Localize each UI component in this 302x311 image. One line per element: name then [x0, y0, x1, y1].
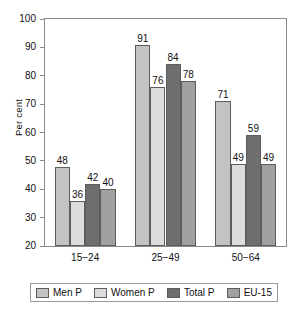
- bar-value-label: 78: [175, 69, 202, 80]
- y-axis-tick-label: 40: [25, 184, 36, 194]
- bar-chart: Per cent 1009080706050403020 48364240917…: [0, 0, 302, 311]
- y-axis-tick-mark: [40, 217, 44, 218]
- y-axis-tick: 40: [0, 184, 44, 194]
- bar-value-label: 84: [160, 52, 187, 63]
- legend-label: Men P: [53, 287, 82, 298]
- bar-total-p-25-49: [166, 64, 181, 246]
- y-axis-tick-mark: [40, 104, 44, 105]
- bar-total-p-15-24: [85, 184, 100, 246]
- chart-legend: Men PWomen PTotal PEU-15: [30, 283, 278, 302]
- y-axis-tick-label: 60: [25, 128, 36, 138]
- bar-eu-15-25-49: [181, 81, 196, 246]
- bar-women-p-15-24: [70, 201, 85, 246]
- y-axis-tick-label: 30: [25, 213, 36, 223]
- y-axis-tick-label: 80: [25, 71, 36, 81]
- bar-value-label: 91: [129, 33, 156, 44]
- y-axis-tick-mark: [40, 189, 44, 190]
- legend-swatch-icon: [227, 288, 240, 298]
- y-axis-tick-mark: [40, 75, 44, 76]
- x-axis-category-label: 25−49: [126, 252, 206, 264]
- y-axis-tick: 90: [0, 42, 44, 52]
- y-axis-tick-mark: [40, 19, 44, 20]
- bar-value-label: 49: [255, 152, 282, 163]
- bar-value-label: 48: [49, 155, 76, 166]
- legend-item-women-p[interactable]: Women P: [94, 287, 155, 298]
- legend-item-eu-15[interactable]: EU-15: [227, 287, 272, 298]
- y-axis-tick-label: 20: [25, 241, 36, 251]
- bar-eu-15-50-64: [261, 164, 276, 246]
- y-axis-tick-mark: [40, 160, 44, 161]
- y-axis-tick: 30: [0, 213, 44, 223]
- legend-label: EU-15: [244, 287, 272, 298]
- bar-men-p-50-64: [215, 101, 230, 246]
- legend-item-total-p[interactable]: Total P: [167, 287, 215, 298]
- y-axis-tick-mark: [40, 246, 44, 247]
- legend-item-men-p[interactable]: Men P: [36, 287, 82, 298]
- y-axis-tick: 70: [0, 99, 44, 109]
- y-axis-tick-mark: [40, 47, 44, 48]
- bar-value-label: 59: [240, 123, 267, 134]
- y-axis-tick: 50: [0, 156, 44, 166]
- y-axis-tick-label: 70: [25, 99, 36, 109]
- legend-swatch-icon: [36, 288, 49, 298]
- bar-value-label: 40: [94, 177, 121, 188]
- legend-label: Women P: [111, 287, 155, 298]
- y-axis-tick-label: 50: [25, 156, 36, 166]
- y-axis-tick-mark: [40, 132, 44, 133]
- bar-women-p-25-49: [150, 87, 165, 246]
- x-axis-category-label: 50−64: [206, 252, 286, 264]
- bar-value-label: 71: [209, 89, 236, 100]
- bar-women-p-50-64: [231, 164, 246, 246]
- legend-swatch-icon: [94, 288, 107, 298]
- bar-men-p-15-24: [55, 167, 70, 246]
- y-axis-tick: 60: [0, 128, 44, 138]
- legend-swatch-icon: [167, 288, 180, 298]
- x-axis-category-label: 15−24: [45, 252, 125, 264]
- y-axis-tick: 20: [0, 241, 44, 251]
- y-axis-tick: 80: [0, 71, 44, 81]
- y-axis-tick: 100: [0, 14, 44, 24]
- y-axis-label: Per cent: [13, 78, 24, 158]
- bar-series-layer: 483642409176847871495949: [45, 19, 286, 246]
- legend-label: Total P: [184, 287, 215, 298]
- y-axis-tick-label: 90: [25, 42, 36, 52]
- bar-eu-15-15-24: [100, 189, 115, 246]
- y-axis-tick-label: 100: [19, 14, 36, 24]
